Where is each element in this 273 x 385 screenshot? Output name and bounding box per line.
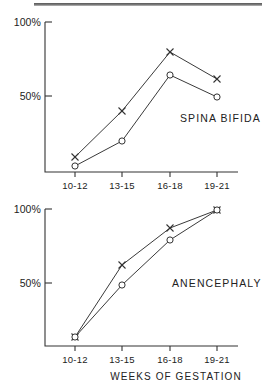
series-line-cross <box>75 210 217 337</box>
marker-circle-3 <box>214 207 220 213</box>
x-tick-label-2: 16-18 <box>157 354 182 365</box>
marker-circle-0 <box>72 163 78 169</box>
x-tick-label-3: 19-21 <box>204 354 229 365</box>
marker-circle-3 <box>214 94 220 100</box>
x-axis-title: WEEKS OF GESTATION <box>110 371 242 382</box>
y-tick-label-50: 50% <box>20 277 41 289</box>
figure-page: 100% 50% 10-12 13-15 16-18 19-21 <box>0 0 273 385</box>
series-line-cross <box>75 52 217 157</box>
marker-cross-0 <box>72 154 79 161</box>
y-tick-label-50: 50% <box>20 90 41 102</box>
marker-cross-2 <box>167 225 174 232</box>
series-line-circle <box>75 210 217 337</box>
chart-title-anencephaly: ANENCEPHALY <box>172 277 262 289</box>
chart-spina-bifida: 100% 50% 10-12 13-15 16-18 19-21 <box>0 0 273 196</box>
x-tick-label-0: 10-12 <box>62 354 87 365</box>
chart-anencephaly-svg: 100% 50% 10-12 13-15 16-18 19-21 <box>0 187 273 385</box>
y-tick-label-100: 100% <box>14 203 41 215</box>
marker-cross-1 <box>119 262 126 269</box>
marker-cross-1 <box>119 108 126 115</box>
x-tick-label-1: 13-15 <box>109 354 134 365</box>
y-tick-label-100: 100% <box>14 16 41 28</box>
chart-anencephaly: 100% 50% 10-12 13-15 16-18 19-21 <box>0 187 273 385</box>
chart-spina-bifida-svg: 100% 50% 10-12 13-15 16-18 19-21 <box>0 0 273 196</box>
marker-circle-0 <box>72 334 78 340</box>
marker-circle-2 <box>167 237 173 243</box>
marker-circle-1 <box>119 282 125 288</box>
marker-circle-1 <box>119 138 125 144</box>
marker-circle-2 <box>167 72 173 78</box>
marker-cross-3 <box>214 76 221 83</box>
marker-cross-2 <box>167 49 174 56</box>
chart-title-spina-bifida: SPINA BIFIDA <box>180 112 261 124</box>
axis-lines <box>45 22 238 172</box>
